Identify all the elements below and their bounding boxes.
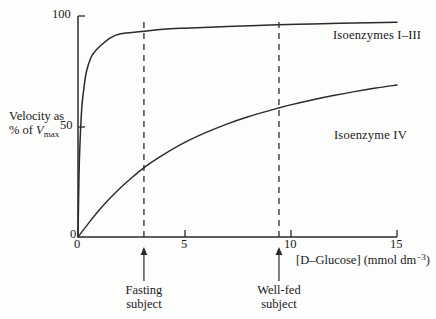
annotation-fasting-line2: subject [113, 297, 175, 311]
annotation-well-fed-line2: subject [248, 297, 310, 311]
y-axis-title: Velocity as % of Vmax [9, 109, 64, 139]
annotation-fasting-line1: Fasting [113, 283, 175, 297]
x-axis-tick-label-15: 15 [390, 237, 403, 251]
annotation-well-fed-subject: Well-fed subject [248, 283, 310, 311]
annotation-well-fed-line1: Well-fed [248, 283, 310, 297]
figure-container: 100 50 0 0 5 10 15 Velocity as % of Vmax… [0, 0, 436, 319]
arrowhead-well-fed [276, 247, 283, 255]
annotation-fasting-subject: Fasting subject [113, 283, 175, 311]
chart-plot-area [0, 0, 436, 319]
y-axis-tick-label-100: 100 [52, 7, 71, 21]
y-axis-title-line2: % of Vmax [9, 123, 64, 139]
series-label-isoenzyme-iv: Isoenzyme IV [334, 128, 407, 142]
annotation-arrows [141, 247, 283, 281]
axes-group [78, 16, 397, 237]
y-axis-title-line1: Velocity as [9, 109, 64, 123]
y-axis-title-subscript: max [44, 129, 60, 139]
x-axis-tick-label-5: 5 [181, 237, 187, 251]
x-axis-title-superscript: −3 [416, 252, 426, 262]
x-axis-title-main: [D–Glucose] (mmol dm [296, 253, 416, 267]
x-axis-tick-label-0: 0 [74, 237, 80, 251]
x-axis-title-tail: ) [426, 253, 430, 267]
x-axis-tick-label-10: 10 [284, 237, 297, 251]
y-axis-title-variable: V [36, 123, 44, 137]
y-axis-title-line2-prefix: % of [9, 123, 36, 137]
x-axis-title: [D–Glucose] (mmol dm−3) [296, 252, 430, 267]
arrowhead-fasting [141, 247, 148, 255]
curve-isoenzyme-iv [78, 85, 397, 237]
series-label-isoenzymes-i-iii: Isoenzymes I–III [333, 28, 421, 42]
